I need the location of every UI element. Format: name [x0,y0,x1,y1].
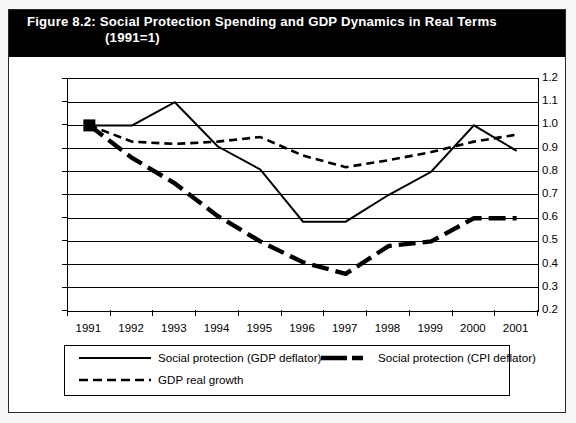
y-tick-label-0.5: 0.5 [514,234,558,246]
figure-container: Figure 8.2: Social Protection Spending a… [0,0,576,423]
y-tick-mark-1.2 [62,78,68,79]
y-tick-label-1.2: 1.2 [514,72,558,84]
gridline-0.9 [68,148,538,149]
y-tick-mark-0.4 [62,264,68,265]
gridline-0.8 [68,171,538,172]
plot-panel: 1.21.11.00.90.80.70.60.50.40.30.2 199119… [17,66,558,326]
x-tick-mark-0 [67,310,68,316]
legend-row-2: GDP real growth [65,374,509,394]
x-tick-mark-11 [537,310,538,316]
x-tick-mark-9 [452,310,453,316]
gridline-0.3 [68,287,538,288]
x-tick-mark-10 [494,310,495,316]
x-tick-mark-7 [366,310,367,316]
x-tick-mark-5 [281,310,282,316]
x-tick-mark-2 [152,310,153,316]
y-tick-label-0.6: 0.6 [514,211,558,223]
y-tick-mark-0.6 [62,217,68,218]
x-tick-mark-6 [323,310,324,316]
y-tick-label-0.9: 0.9 [514,142,558,154]
legend-row-1: Social protection (GDP deflator) Social … [65,352,509,372]
x-tick-mark-3 [195,310,196,316]
figure-title-bar: Figure 8.2: Social Protection Spending a… [9,10,565,57]
legend-swatch-solid-thin [77,352,153,364]
y-tick-label-1.1: 1.1 [514,95,558,107]
y-tick-mark-0.8 [62,171,68,172]
x-tick-mark-1 [110,310,111,316]
figure-title-line-2: (1991=1) [27,30,555,46]
y-tick-mark-0.7 [62,194,68,195]
legend-swatch-thin-dashed [77,374,153,386]
gridline-0.6 [68,218,538,219]
x-tick-mark-8 [409,310,410,316]
y-tick-label-1.0: 1.0 [514,118,558,130]
legend-label-2: GDP real growth [158,374,244,386]
y-tick-mark-1.0 [62,124,68,125]
y-tick-label-0.7: 0.7 [514,188,558,200]
chart-legend: Social protection (GDP deflator) Social … [64,345,510,396]
x-tick-label-2001: 2001 [488,322,544,334]
legend-swatch-thick-dashed [319,352,365,364]
legend-item-social-protection-gdp-deflator: Social protection (GDP deflator) [77,352,321,364]
y-tick-label-0.2: 0.2 [514,304,558,316]
plot-axes [67,78,539,312]
series-line-2 [89,125,516,167]
gridline-1.1 [68,102,538,103]
gridline-0.7 [68,194,538,195]
legend-item-gdp-real-growth: GDP real growth [77,374,244,386]
y-tick-label-0.3: 0.3 [514,281,558,293]
legend-label-0: Social protection (GDP deflator) [158,352,321,364]
x-tick-mark-4 [238,310,239,316]
gridline-1.0 [68,125,538,126]
legend-label-1: Social protection (CPI deflator) [378,352,536,364]
y-tick-mark-1.1 [62,101,68,102]
gridline-0.4 [68,264,538,265]
y-tick-mark-0.3 [62,287,68,288]
y-tick-label-0.4: 0.4 [514,258,558,270]
series-line-0 [89,102,516,221]
y-tick-label-0.8: 0.8 [514,165,558,177]
gridline-0.5 [68,241,538,242]
legend-item-social-protection-cpi-deflator: Social protection (CPI deflator) [319,352,536,364]
figure-title-line-1: Figure 8.2: Social Protection Spending a… [27,14,555,30]
y-tick-mark-0.5 [62,240,68,241]
y-tick-mark-0.9 [62,148,68,149]
